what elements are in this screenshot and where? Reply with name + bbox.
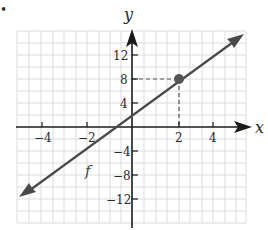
y-tick-label: −4 xyxy=(113,145,131,159)
function-graph: • −4 −2 2 xyxy=(0,0,268,230)
x-tick-label: 2 xyxy=(175,131,183,145)
line-start-arrow-icon xyxy=(19,183,36,197)
highlighted-point xyxy=(174,74,184,84)
function-label: f xyxy=(84,162,93,180)
y-tick-label: 12 xyxy=(113,49,128,63)
y-tick-label: −8 xyxy=(113,169,131,183)
x-tick-label: 4 xyxy=(209,131,217,145)
problem-bullet: • xyxy=(0,3,7,17)
x-axis-label: x xyxy=(255,118,264,137)
function-line xyxy=(26,40,236,193)
x-tick-label: −4 xyxy=(34,131,52,145)
y-tick-label: −12 xyxy=(106,193,131,207)
y-tick-label: 4 xyxy=(120,97,128,111)
y-axis-label: y xyxy=(123,5,134,24)
y-tick-label: 8 xyxy=(120,73,128,87)
